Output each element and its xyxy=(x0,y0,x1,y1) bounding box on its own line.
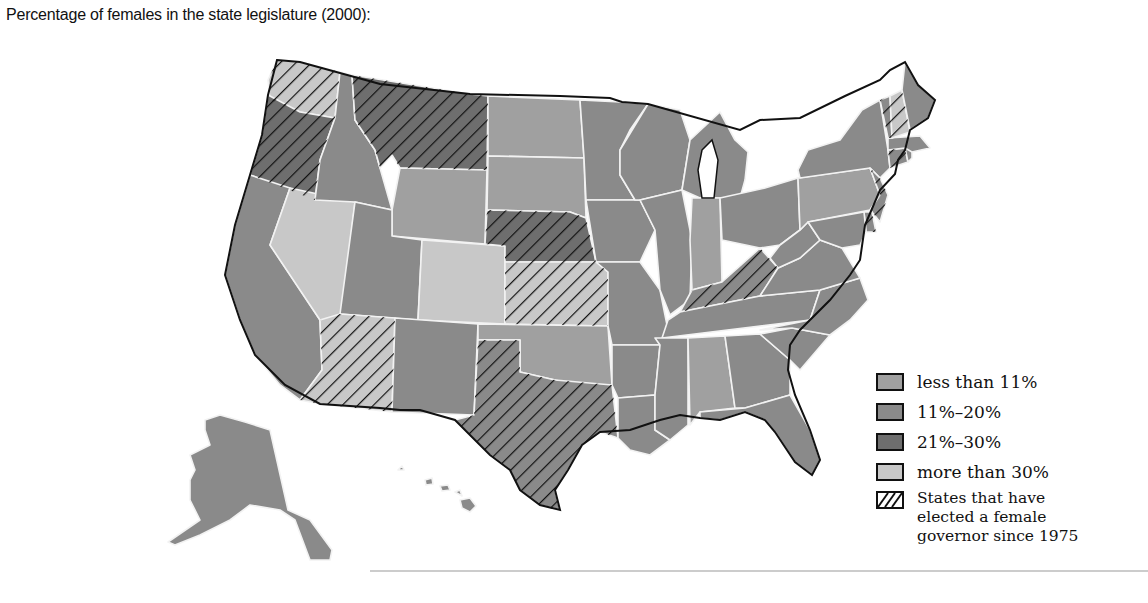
legend-swatch-less-than-11 xyxy=(876,373,904,391)
state-ms xyxy=(655,338,688,440)
hatch-swatch-icon xyxy=(876,491,904,509)
state-nm xyxy=(392,318,478,415)
legend-item-female-governor: States that have elected a female govern… xyxy=(876,489,1087,546)
legend-swatch-more-than-30 xyxy=(876,463,904,481)
legend-item-21-30: 21%–30% xyxy=(876,427,1087,457)
legend-label: more than 30% xyxy=(917,462,1049,482)
state-ak xyxy=(168,415,332,560)
legend-item-less-than-11: less than 11% xyxy=(876,367,1087,397)
legend-item-more-than-30: more than 30% xyxy=(876,457,1087,487)
legend-label: 11%–20% xyxy=(917,402,1001,422)
map-legend: less than 11% 11%–20% 21%–30% more than … xyxy=(876,367,1087,546)
legend-item-11-20: 11%–20% xyxy=(876,397,1087,427)
legend-label: less than 11% xyxy=(917,372,1037,392)
legend-swatch-21-30 xyxy=(876,433,904,451)
state-ar xyxy=(612,345,660,398)
legend-label: 21%–30% xyxy=(917,432,1001,452)
state-hi xyxy=(398,466,476,512)
state-sd xyxy=(487,156,586,218)
hatch-overlay-ks xyxy=(505,262,608,326)
state-wy xyxy=(392,168,487,244)
legend-swatch-11-20 xyxy=(876,403,904,421)
divider-rule xyxy=(370,570,1148,572)
state-nd xyxy=(488,96,584,158)
state-in xyxy=(690,198,722,290)
state-co xyxy=(418,240,505,324)
legend-label: States that have elected a female govern… xyxy=(917,489,1087,546)
